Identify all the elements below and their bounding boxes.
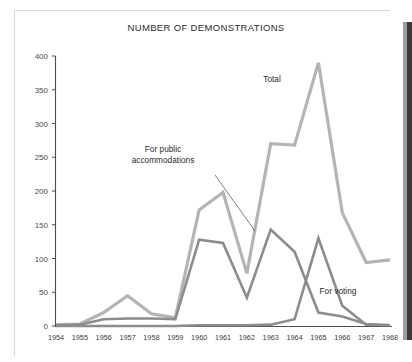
x-tick-label: 1966 — [334, 333, 350, 342]
total-label: Total — [263, 74, 281, 84]
x-tick-label: 1964 — [286, 333, 302, 342]
x-tick-label: 1965 — [310, 333, 326, 342]
x-tick-label: 1957 — [119, 333, 135, 342]
x-tick-label: 1958 — [143, 333, 159, 342]
x-tick-label: 1956 — [96, 333, 112, 342]
scan-artifact-dark-edge — [407, 22, 412, 340]
public-accommodations-label: For publicaccommodations — [132, 144, 195, 165]
chart-title: NUMBER OF DEMONSTRATIONS — [127, 22, 284, 33]
y-tick-label: 150 — [35, 221, 49, 230]
y-tick-label: 250 — [35, 153, 49, 162]
public-accommodations-label-line: For public — [145, 144, 181, 154]
demonstrations-line-chart: NUMBER OF DEMONSTRATIONS 050100150200250… — [0, 0, 412, 362]
for-voting-label: For voting — [320, 286, 357, 296]
public-accommodations-label-line: accommodations — [132, 155, 195, 165]
x-tick-label: 1968 — [382, 333, 398, 342]
x-tick-label: 1955 — [72, 333, 88, 342]
x-tick-label: 1962 — [239, 333, 255, 342]
x-tick-label: 1959 — [167, 333, 183, 342]
x-tick-label: 1954 — [48, 333, 64, 342]
x-tick-label: 1960 — [191, 333, 207, 342]
y-axis-tick-labels: 050100150200250300350400 — [35, 52, 49, 331]
series-line-for-voting — [56, 238, 390, 326]
y-tick-label: 300 — [35, 120, 49, 129]
leader-lines — [215, 175, 255, 231]
y-tick-label: 350 — [35, 86, 49, 95]
public-accommodations-leader — [215, 175, 255, 231]
y-tick-label: 100 — [35, 255, 49, 264]
y-tick-label: 50 — [39, 288, 48, 297]
x-tick-label: 1963 — [263, 333, 279, 342]
y-tick-label: 400 — [35, 52, 49, 61]
x-tick-label: 1961 — [215, 333, 231, 342]
x-tick-label: 1967 — [358, 333, 374, 342]
chart-page: NUMBER OF DEMONSTRATIONS 050100150200250… — [0, 0, 412, 362]
y-tick-label: 200 — [35, 187, 49, 196]
x-axis-tick-labels: 1954195519561957195819591960196119621963… — [48, 333, 398, 342]
y-tick-label: 0 — [44, 322, 49, 331]
